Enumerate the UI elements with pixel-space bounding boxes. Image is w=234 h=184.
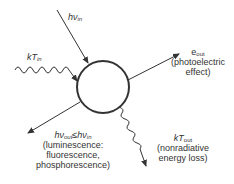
electron-out-label: eout (photoelectric effect)	[163, 47, 233, 77]
photon-out-arrow	[28, 102, 80, 133]
thermal-out-wavy-arrow	[119, 107, 146, 166]
thermal-in-label: kTin	[27, 52, 42, 62]
photon-out-label: hνout≤hνin (luminescence: fluorescence, …	[30, 130, 116, 170]
thermal-in-wavy-arrow	[15, 67, 77, 81]
central-body-circle	[77, 61, 129, 113]
thermal-out-label: kTout (nonradiative energy loss)	[150, 133, 216, 163]
photon-in-label: hνin	[68, 12, 82, 22]
